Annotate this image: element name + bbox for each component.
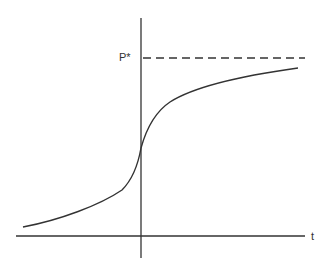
x-axis-label: t	[311, 231, 314, 242]
chart-canvas: P* t	[0, 0, 329, 272]
sigmoid-curve	[23, 68, 298, 227]
chart-svg	[0, 0, 329, 272]
asymptote-label: P*	[119, 52, 131, 63]
